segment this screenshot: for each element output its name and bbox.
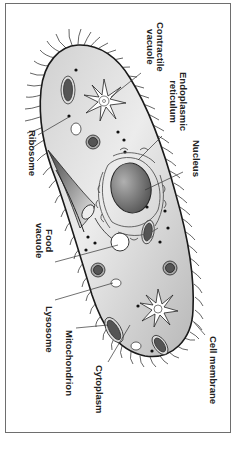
label-mitochondrion: Mitochondrion [64,330,74,396]
label-ribosome: Ribosome [27,130,37,176]
label-food-vacuole: Food vacuole [34,223,54,258]
label-lysosome: Lysosome [44,306,54,353]
label-contractile-vacuole: Contractile vacuole [145,22,165,72]
label-cytoplasm: Cytoplasm [94,365,104,414]
label-endoplasmic-reticulum: Endoplasmic reticulum [168,72,188,131]
label-cell-membrane: Cell membrane [208,336,218,404]
food-vacuole [111,233,129,251]
label-nucleus: Nucleus [191,140,201,177]
